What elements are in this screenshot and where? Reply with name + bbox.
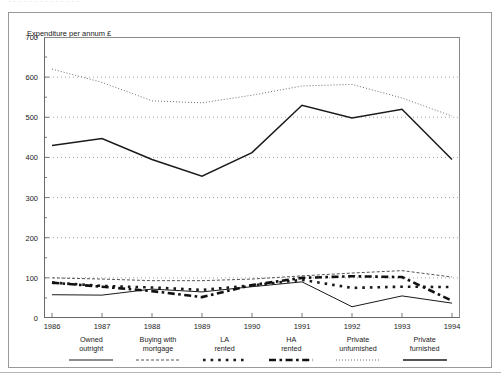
legend-item-owned-outright[interactable]: Ownedoutright <box>58 336 125 360</box>
x-tick-label: 1994 <box>444 322 461 331</box>
x-tick-label: 1992 <box>344 322 361 331</box>
y-tick-label: 200 <box>12 234 38 243</box>
y-tick-label: 0 <box>12 314 38 323</box>
legend-item-la-rented[interactable]: LArented <box>191 336 258 360</box>
y-tick-label: 300 <box>12 194 38 203</box>
legend-label-line2: furnished <box>391 345 458 354</box>
legend-swatch <box>403 356 447 360</box>
gridlines <box>44 37 459 318</box>
cropped-title-strip: · · · · · · · · · · · · · · <box>0 0 501 11</box>
legend-swatch <box>69 356 113 360</box>
legend-item-private-unfurnished[interactable]: Privateunfurnished <box>325 336 392 360</box>
legend-item-private-furnished[interactable]: Privatefurnished <box>391 336 458 360</box>
series-line-private-furnished <box>52 105 452 176</box>
x-tick-label: 1993 <box>394 322 411 331</box>
y-axis-tick-labels: 0100200300400500600700 <box>10 37 38 318</box>
series-line-ha-rented <box>52 276 452 300</box>
legend-label-line2: rented <box>258 345 325 354</box>
chart-page: · · · · · · · · · · · · · · Expenditure … <box>0 0 501 380</box>
series-lines <box>52 69 452 307</box>
legend-label-line2: unfurnished <box>325 345 392 354</box>
chart-legend: OwnedoutrightBuying withmortgageLArented… <box>58 336 458 370</box>
y-tick-label: 100 <box>12 274 38 283</box>
x-tick-label: 1988 <box>144 322 161 331</box>
chart-svg <box>44 37 460 318</box>
legend-item-buying-with-mortgage[interactable]: Buying withmortgage <box>125 336 192 360</box>
legend-divider <box>0 372 501 373</box>
x-tick-label: 1991 <box>294 322 311 331</box>
series-line-private-unfurnished <box>52 69 452 116</box>
legend-swatch <box>336 356 380 360</box>
legend-label-line2: mortgage <box>125 345 192 354</box>
y-tick-label: 400 <box>12 153 38 162</box>
legend-swatch <box>136 356 180 360</box>
x-tick-label: 1987 <box>94 322 111 331</box>
plot-area <box>44 37 460 318</box>
legend-item-ha-rented[interactable]: HArented <box>258 336 325 360</box>
x-tick-label: 1990 <box>244 322 261 331</box>
y-tick-label: 600 <box>12 73 38 82</box>
y-tick-label: 500 <box>12 113 38 122</box>
legend-swatch <box>269 356 313 360</box>
x-tick-label: 1989 <box>194 322 211 331</box>
x-axis-tick-labels: 198619871988198919901991199219931994 <box>44 322 460 334</box>
y-tick-label: 700 <box>12 33 38 42</box>
legend-label-line2: outright <box>58 345 125 354</box>
legend-label-line2: rented <box>191 345 258 354</box>
legend-swatch <box>203 356 247 360</box>
x-tick-label: 1986 <box>44 322 61 331</box>
